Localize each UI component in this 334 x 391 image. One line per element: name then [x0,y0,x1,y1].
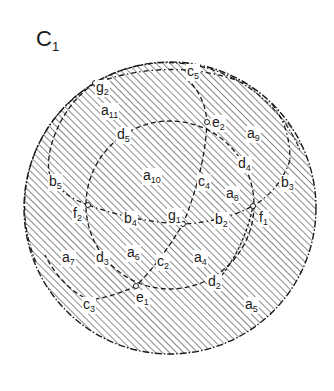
label-sub: 1 [176,215,181,225]
label-main: a [127,244,135,260]
label-d5: d5 [116,127,131,144]
label-a5: a5 [244,297,259,314]
label-sub: 2 [216,281,221,291]
label-a9: a9 [246,126,261,143]
label-sub: 5 [253,304,258,314]
label-sub: 2 [104,87,109,97]
node-f2 [86,203,91,208]
label-main: a [194,249,202,265]
label-a10: a10 [142,168,162,185]
label-sub: 1 [263,217,268,227]
label-d2: d2 [207,274,222,291]
label-b5: b5 [48,174,63,191]
label-main: g [96,79,104,95]
label-a8: a8 [225,186,240,203]
label-sub: 11 [109,110,118,120]
label-sub: 5 [57,181,62,191]
label-b3: b3 [280,175,295,192]
label-sub: 3 [104,257,109,267]
label-sub: 5 [194,71,199,81]
label-main: c [157,253,164,269]
label-sub: 9 [255,133,260,143]
label-sub: 2 [164,261,169,271]
label-main: b [124,210,132,226]
label-sub: 5 [125,134,130,144]
label-e1: e1 [135,290,150,307]
label-sub: 4 [205,181,210,191]
label-sub: 10 [151,175,161,185]
label-d4: d4 [237,156,252,173]
label-sub: 2 [223,219,228,229]
label-main: b [49,173,57,189]
label-f2: f2 [72,206,83,223]
figure-title-main: C [36,26,52,51]
label-c4: c4 [197,174,211,191]
label-main: c [187,63,194,79]
label-b2: b2 [214,212,229,229]
label-g1: g1 [167,208,182,225]
label-sub: 7 [70,257,75,267]
label-main: a [226,185,234,201]
sphere-partition-diagram [0,0,334,391]
label-main: e [136,289,144,305]
label-c5: c5 [186,64,200,81]
label-main: a [62,249,70,265]
label-main: a [245,296,253,312]
label-sub: 3 [90,304,95,314]
node-e1 [134,284,139,289]
figure-title: C1 [36,28,59,53]
label-main: e [212,114,220,130]
label-main: c [83,296,90,312]
label-main: g [168,207,176,223]
label-sub: 8 [234,193,239,203]
label-b4: b4 [123,211,138,228]
label-a7: a7 [61,250,76,267]
label-main: a [247,125,255,141]
label-a11: a11 [100,103,119,120]
label-main: c [198,173,205,189]
node-f1 [251,204,256,209]
label-a4: a4 [193,250,208,267]
label-e2: e2 [211,115,226,132]
label-c2: c2 [156,254,170,271]
label-main: d [238,155,246,171]
label-sub: 1 [144,297,149,307]
label-sub: 4 [246,163,251,173]
label-main: d [117,126,125,142]
node-e2 [205,120,210,125]
label-sub: 2 [220,122,225,132]
label-main: b [281,174,289,190]
label-g2: g2 [95,80,110,97]
label-main: a [143,167,151,183]
label-sub: 4 [132,218,137,228]
label-c3: c3 [82,297,96,314]
label-main: d [96,249,104,265]
label-sub: 6 [135,252,140,262]
label-main: a [101,102,109,118]
label-sub: 3 [289,182,294,192]
label-main: d [208,273,216,289]
label-sub: 2 [77,213,82,223]
label-f1: f1 [258,210,269,227]
label-main: b [215,211,223,227]
figure-title-sub: 1 [52,39,59,54]
label-a6: a6 [126,245,141,262]
label-d3: d3 [95,250,110,267]
label-sub: 4 [202,257,207,267]
